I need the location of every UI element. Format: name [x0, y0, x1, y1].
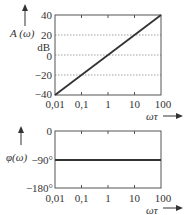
- y-tick-label: −90°: [31, 154, 53, 166]
- x-tick-label: 0,1: [75, 98, 89, 110]
- x-axis-label: ωτ: [146, 204, 159, 215]
- y-tick-label: 40: [41, 9, 53, 21]
- x-tick-label: 0,01: [45, 192, 64, 204]
- x-tick-label: 100: [155, 192, 172, 204]
- x-tick-label: 1: [105, 98, 111, 110]
- x-tick-label: 10: [129, 192, 141, 204]
- arrow-up-icon: [22, 4, 28, 11]
- x-tick-label: 1: [105, 192, 111, 204]
- phase-plot: 0 −90° −180° φ(ω) 0,01 0,1 1 10 100 ωτ: [6, 125, 183, 215]
- x-axis-label: ωτ: [146, 110, 159, 122]
- magnitude-plot: 40 20 dB 0 −20 −40 A (ω) 0,01 0,1 1 10 1…: [9, 4, 183, 122]
- y-axis-label: φ(ω): [6, 151, 28, 164]
- y-tick-label: 20: [41, 29, 53, 41]
- arrow-right-icon: [176, 205, 183, 211]
- y-tick-label: 0: [47, 125, 53, 137]
- x-tick-label: 100: [155, 98, 172, 110]
- x-tick-label: 0,1: [75, 192, 89, 204]
- x-tick-label: 0,01: [45, 98, 64, 110]
- x-tick-label: 10: [129, 98, 141, 110]
- arrow-up-icon: [18, 126, 24, 133]
- y-axis-label: A (ω): [9, 27, 35, 40]
- arrow-right-icon: [176, 113, 183, 119]
- bode-plot: 40 20 dB 0 −20 −40 A (ω) 0,01 0,1 1 10 1…: [0, 0, 188, 215]
- y-tick-label: 0: [47, 50, 53, 62]
- y-tick-label: −20: [35, 69, 53, 81]
